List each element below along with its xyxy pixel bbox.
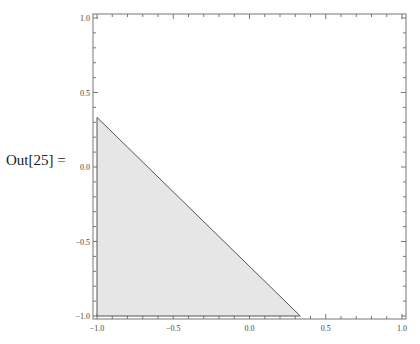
y-tick-label: 0.0: [80, 163, 90, 172]
y-tick-label: −1.0: [75, 312, 90, 321]
y-tick-label: −0.5: [75, 238, 90, 247]
x-tick-label: 1.0: [397, 324, 407, 333]
x-tick-label: 0.5: [321, 324, 331, 333]
y-tick-label: 1.0: [80, 14, 90, 23]
region-plot: −1.0−0.50.00.51.0−1.0−0.50.00.51.0: [0, 0, 420, 344]
x-tick-label: −1.0: [90, 324, 105, 333]
x-tick-label: 0.0: [245, 324, 255, 333]
triangle-region: [97, 117, 300, 316]
y-tick-label: 0.5: [80, 89, 90, 98]
x-tick-label: −0.5: [166, 324, 181, 333]
